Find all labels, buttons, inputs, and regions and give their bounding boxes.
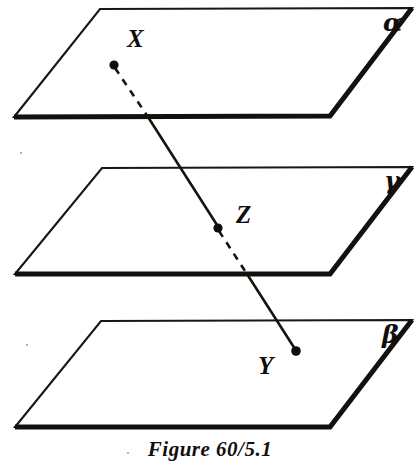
plane-alpha-surface bbox=[14, 8, 412, 117]
point-z-label: Z bbox=[235, 201, 251, 228]
plane-gamma-label: γ bbox=[384, 166, 402, 195]
three-parallel-planes-diagram: α γ β X Z bbox=[0, 0, 420, 471]
plane-beta-surface bbox=[15, 320, 412, 427]
scan-speck bbox=[26, 344, 28, 346]
point-y-dot bbox=[291, 346, 301, 356]
plane-beta-label: β bbox=[381, 320, 399, 349]
scan-speck bbox=[20, 152, 22, 154]
figure-caption: Figure 60/5.1 bbox=[0, 437, 420, 462]
point-x-dot bbox=[109, 60, 118, 69]
geometry-figure: α γ β X Z bbox=[0, 0, 420, 471]
point-x-label: X bbox=[126, 25, 145, 52]
point-z-dot bbox=[213, 223, 222, 232]
plane-alpha-label: α bbox=[383, 8, 402, 37]
plane-alpha: α bbox=[14, 8, 412, 117]
plane-beta: β bbox=[15, 320, 412, 427]
